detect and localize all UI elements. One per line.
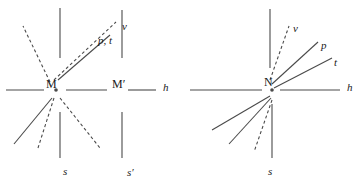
ray-v-dashed <box>270 26 289 80</box>
label-p-t: p, t <box>98 35 112 46</box>
ray-upper-left-dashed <box>23 26 50 82</box>
ray-t-solid <box>274 58 332 88</box>
ray-lower-dashed <box>254 100 272 152</box>
label-N: N <box>264 76 273 88</box>
label-v: v <box>293 23 298 34</box>
label-p: p <box>321 40 327 51</box>
label-h: h <box>163 82 169 93</box>
label-s-prime: s′ <box>127 167 134 178</box>
ray-lower-right-dashed <box>60 98 100 148</box>
figure-root: vp, thMM′ss′ vpthNs <box>0 0 364 189</box>
diagram-panel-left: vp, thMM′ss′ <box>0 0 182 189</box>
ray-v-dashed <box>54 22 116 80</box>
label-s: s <box>63 166 67 177</box>
diagram-panel-right: vpthNs <box>182 0 364 189</box>
label-h: h <box>347 82 353 93</box>
label-M: M <box>46 78 57 90</box>
diagram-left-svg <box>0 0 182 189</box>
label-v: v <box>122 21 127 32</box>
label-t: t <box>334 57 337 68</box>
label-M-prime: M′ <box>112 78 125 90</box>
diagram-right-svg <box>182 0 364 189</box>
label-s: s <box>268 166 272 177</box>
ray-lower-left-1-solid <box>212 96 270 130</box>
